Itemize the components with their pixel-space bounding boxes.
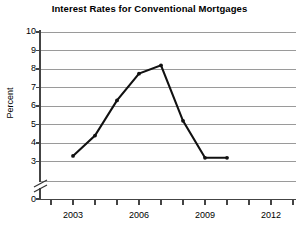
data-point-2007 — [159, 63, 163, 67]
gridlines — [40, 32, 296, 181]
data-series-line — [73, 65, 227, 158]
chart-container: Interest Rates for Conventional Mortgage… — [0, 0, 299, 228]
data-point-2004 — [93, 134, 97, 138]
data-point-2009 — [203, 156, 207, 160]
data-point-2008 — [181, 119, 185, 123]
data-point-markers — [71, 63, 229, 159]
data-point-2010 — [225, 156, 229, 160]
plot-area — [0, 0, 299, 228]
data-point-2003 — [71, 154, 75, 158]
data-point-2005 — [115, 99, 119, 103]
x-tick-marks — [51, 200, 293, 206]
data-point-2006 — [137, 72, 141, 76]
